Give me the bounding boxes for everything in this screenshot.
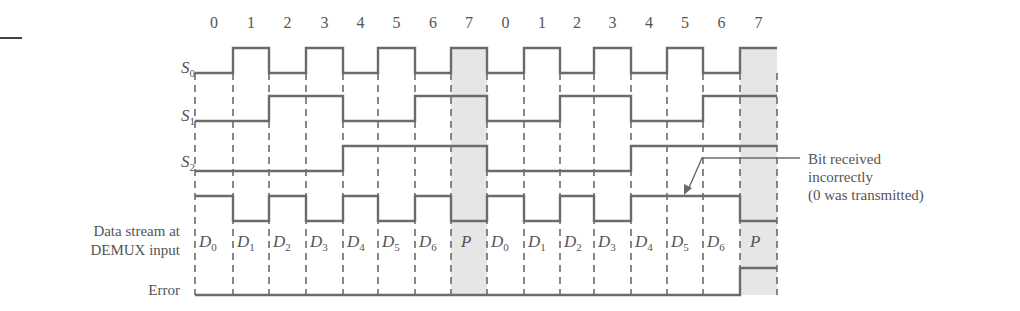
slot-number: 2 xyxy=(567,14,587,32)
data-slot-label: D2 xyxy=(273,232,291,253)
slot-number: 5 xyxy=(675,14,695,32)
waveform-s1 xyxy=(195,96,777,121)
data-slot-label: P xyxy=(750,232,760,252)
data-slot-label: D0 xyxy=(199,232,217,253)
annotation-arrow xyxy=(0,38,800,195)
label-error: Error xyxy=(120,282,180,299)
data-slot-label: D1 xyxy=(237,232,255,253)
data-slot-label: D0 xyxy=(491,232,509,253)
slot-number: 1 xyxy=(532,14,552,32)
slot-number: 4 xyxy=(351,14,371,32)
data-slot-label: D1 xyxy=(528,232,546,253)
slot-number: 6 xyxy=(712,14,732,32)
slot-number: 7 xyxy=(459,14,479,32)
data-stream-line1: Data stream at xyxy=(50,222,180,241)
slot-number: 0 xyxy=(496,14,516,32)
annotation-line2: incorrectly xyxy=(808,168,924,186)
data-slot-label: D2 xyxy=(564,232,582,253)
data-slot-label: D6 xyxy=(707,232,725,253)
slot-number: 5 xyxy=(387,14,407,32)
data-slot-label: D3 xyxy=(310,232,328,253)
parity-slot-shade xyxy=(451,48,487,295)
label-data-stream: Data stream at DEMUX input xyxy=(50,222,180,260)
data-slot-label: D5 xyxy=(671,232,689,253)
label-s1: S1 xyxy=(135,106,195,127)
waveform-s2 xyxy=(195,146,777,171)
data-slot-label: D5 xyxy=(382,232,400,253)
slot-number: 1 xyxy=(241,14,261,32)
slot-number: 6 xyxy=(423,14,443,32)
slot-number: 7 xyxy=(749,14,769,32)
data-stream-line2: DEMUX input xyxy=(50,241,180,260)
annotation-line3: (0 was transmitted) xyxy=(808,186,924,204)
label-s2: S2 xyxy=(135,152,195,173)
data-slot-label: D6 xyxy=(419,232,437,253)
slot-number: 3 xyxy=(315,14,335,32)
slot-number: 2 xyxy=(278,14,298,32)
label-s0: S0 xyxy=(135,58,195,79)
data-slot-label: P xyxy=(461,232,471,252)
parity-slot-shade xyxy=(740,48,777,295)
waveform-s0 xyxy=(195,48,777,73)
data-slot-label: D4 xyxy=(635,232,653,253)
slot-number: 3 xyxy=(603,14,623,32)
waveform-data xyxy=(195,196,777,221)
arrowhead-icon xyxy=(684,184,692,195)
slot-number: 4 xyxy=(639,14,659,32)
annotation-line1: Bit received xyxy=(808,150,924,168)
data-slot-label: D4 xyxy=(347,232,365,253)
annotation-text: Bit received incorrectly (0 was transmit… xyxy=(808,150,924,204)
data-slot-label: D3 xyxy=(598,232,616,253)
slot-number: 0 xyxy=(204,14,224,32)
